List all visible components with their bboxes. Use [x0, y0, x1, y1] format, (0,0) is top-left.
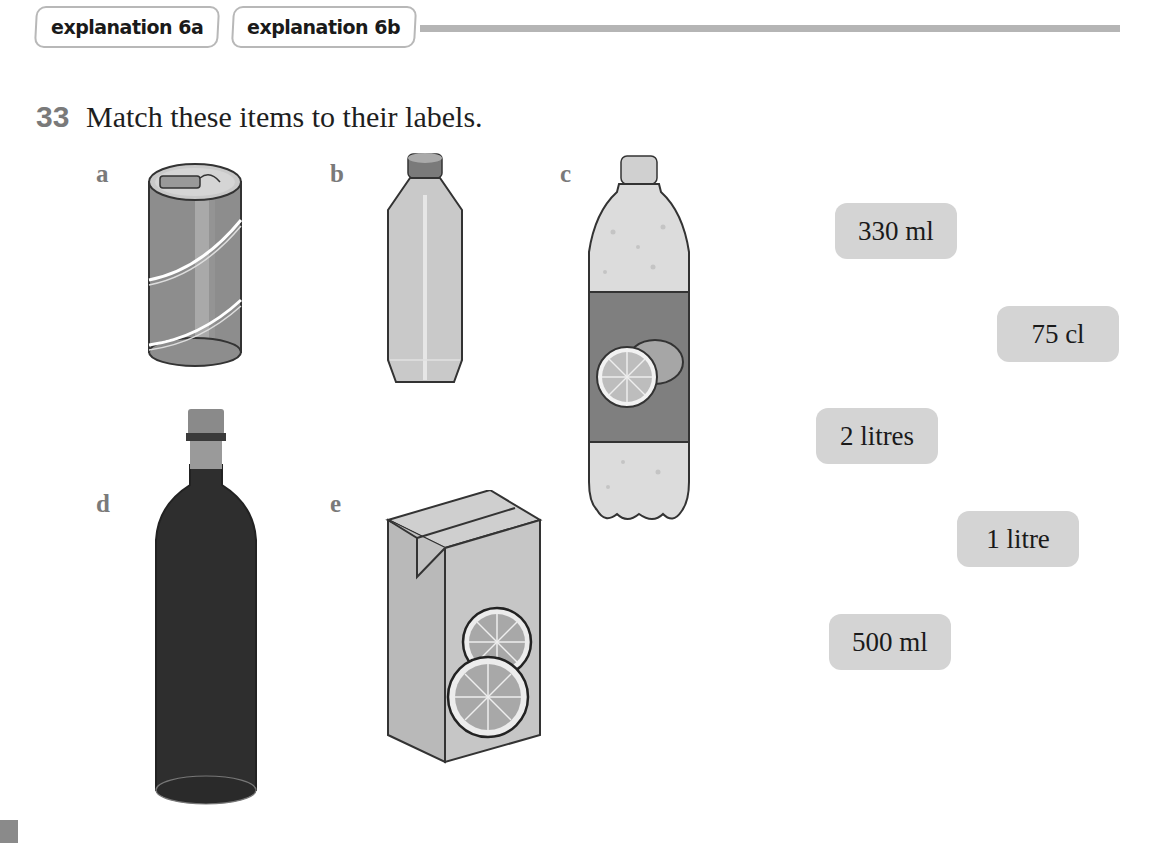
item-letter-a: a [96, 160, 109, 188]
item-letter-b: b [330, 160, 344, 188]
item-letter-e: e [330, 490, 341, 518]
tab-explanation-6b[interactable]: explanation 6b [231, 6, 417, 48]
item-letter-d: d [96, 490, 110, 518]
tab-explanation-6a[interactable]: explanation 6a [34, 6, 220, 48]
wine-bottle-icon[interactable] [150, 405, 262, 810]
label-2-litres[interactable]: 2 litres [816, 408, 938, 464]
page-corner-marker [0, 820, 18, 843]
water-bottle-icon[interactable] [380, 150, 470, 390]
lemonade-bottle-icon[interactable] [583, 152, 695, 527]
soda-can-icon[interactable] [140, 160, 250, 370]
label-330ml[interactable]: 330 ml [835, 203, 957, 259]
juice-carton-icon[interactable] [385, 490, 545, 770]
question-instruction: Match these items to their labels. [86, 100, 483, 134]
tab-label: explanation 6b [247, 16, 400, 38]
label-75cl[interactable]: 75 cl [997, 306, 1119, 362]
question-number: 33 [36, 100, 69, 134]
label-500ml[interactable]: 500 ml [829, 614, 951, 670]
tab-label: explanation 6a [51, 16, 203, 38]
header-rule [420, 25, 1120, 32]
label-1-litre[interactable]: 1 litre [957, 511, 1079, 567]
item-letter-c: c [560, 160, 571, 188]
